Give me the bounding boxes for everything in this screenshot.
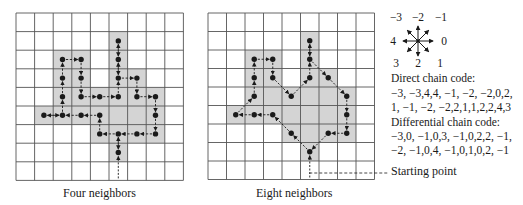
direction-compass-icon <box>403 26 433 56</box>
boundary-pixel-dot <box>326 75 331 80</box>
compass-arrow-down-left <box>407 41 418 52</box>
differential-chain-code-line-1: −3,0, −1,0,3, −1,0,2,2, −1, <box>391 129 512 143</box>
compass-arrow-down-right <box>418 41 429 52</box>
compass-arrow-up-left <box>407 30 418 41</box>
boundary-pixel-dot <box>307 57 312 62</box>
boundary-pixel-dot <box>344 112 349 117</box>
direction-label-down-right: 1 <box>437 57 443 69</box>
four-neighbors-grid <box>16 13 183 180</box>
boundary-pixel-dot <box>270 112 275 117</box>
differential-chain-code-line-2: −2, −1,0,4, −1,0,1,0,2, −1 <box>391 143 509 157</box>
shaded-cell <box>319 106 338 125</box>
boundary-pixel-dot <box>252 75 257 80</box>
boundary-pixel-dot <box>97 131 102 136</box>
boundary-pixel-dot <box>116 131 121 136</box>
shaded-cell <box>109 106 128 125</box>
compass-arrow-up-right <box>418 30 429 41</box>
boundary-pixel-dot <box>153 113 158 118</box>
eight-neighbors-grid <box>208 13 375 180</box>
boundary-pixel-dot <box>307 38 312 43</box>
boundary-pixel-dot <box>116 150 121 155</box>
boundary-pixel-dot <box>41 113 46 118</box>
boundary-pixel-dot <box>116 38 121 43</box>
shaded-cell <box>301 106 320 125</box>
boundary-pixel-dot <box>344 94 349 99</box>
boundary-pixel-dot <box>60 113 65 118</box>
boundary-pixel-dot <box>153 131 158 136</box>
starting-point-leader-line <box>310 173 388 174</box>
compass-center-dot <box>416 39 420 43</box>
boundary-pixel-dot <box>326 131 331 136</box>
boundary-pixel-dot <box>344 131 349 136</box>
boundary-pixel-dot <box>78 57 83 62</box>
boundary-pixel-dot <box>78 75 83 80</box>
four-neighbors-caption: Four neighbors <box>63 186 136 201</box>
boundary-pixel-dot <box>116 94 121 99</box>
boundary-pixel-dot <box>116 75 121 80</box>
shaded-cell <box>264 87 283 106</box>
boundary-pixel-dot <box>289 131 294 136</box>
boundary-pixel-dot <box>60 57 65 62</box>
eight-neighbors-caption: Eight neighbors <box>256 186 332 201</box>
boundary-pixel-dot <box>270 75 275 80</box>
shaded-cell <box>319 87 338 106</box>
boundary-pixel-dot <box>153 94 158 99</box>
boundary-pixel-dot <box>307 149 312 154</box>
boundary-pixel-dot <box>270 57 275 62</box>
direct-chain-code-line-2: 1, −1, −2, −2,2,1,1,2,2,4,3 <box>391 100 511 114</box>
boundary-pixel-dot <box>252 112 257 117</box>
boundary-pixel-dot <box>134 75 139 80</box>
direction-label-up: −2 <box>412 11 424 23</box>
boundary-pixel-dot <box>134 131 139 136</box>
boundary-pixel-dot <box>233 112 238 117</box>
direct-chain-code-line-1: −3, −3,4,4, −1, −2, −2,0,2, <box>391 86 513 100</box>
starting-point-label: Starting point <box>391 164 457 179</box>
direction-label-up-right: −1 <box>435 11 447 23</box>
boundary-pixel-dot <box>307 75 312 80</box>
shaded-cell <box>301 87 320 106</box>
boundary-pixel-dot <box>97 94 102 99</box>
boundary-pixel-dot <box>252 57 257 62</box>
leader-line <box>310 173 388 174</box>
boundary-pixel-dot <box>78 94 83 99</box>
boundary-pixel-dot <box>116 57 121 62</box>
direct-chain-code-heading: Direct chain code: <box>391 71 475 85</box>
boundary-pixel-dot <box>60 75 65 80</box>
boundary-pixel-dot <box>78 113 83 118</box>
differential-chain-code-heading: Differential chain code: <box>391 115 500 129</box>
direction-label-down-left: 3 <box>393 57 399 69</box>
chain-code-figure: Four neighbors Eight neighbors −3 −2 −1 … <box>0 0 523 205</box>
shaded-cell <box>128 106 147 125</box>
boundary-pixel-dot <box>289 94 294 99</box>
direction-label-left: 4 <box>390 35 396 47</box>
boundary-pixel-dot <box>97 113 102 118</box>
direction-label-up-left: −3 <box>390 11 402 23</box>
boundary-pixel-dot <box>134 94 139 99</box>
boundary-pixel-dot <box>252 94 257 99</box>
direction-label-down: 2 <box>415 57 421 69</box>
boundary-pixel-dot <box>60 94 65 99</box>
shaded-cell <box>301 124 320 143</box>
shaded-cell <box>282 106 301 125</box>
direction-label-right: 0 <box>441 35 447 47</box>
